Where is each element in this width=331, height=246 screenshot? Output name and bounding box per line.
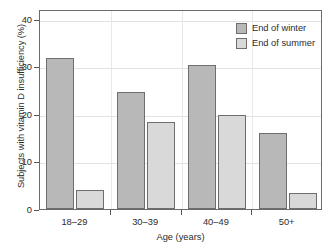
bar-30-39-end-of-summer xyxy=(147,122,175,209)
x-axis-tick-label: 50+ xyxy=(279,216,295,229)
y-axis-tick-label: 0 xyxy=(14,205,32,215)
legend-item-end-of-summer: End of summer xyxy=(236,37,315,49)
bar-50+-end-of-winter xyxy=(259,133,287,209)
legend: End of winter End of summer xyxy=(236,22,315,49)
gridline-vertical xyxy=(111,11,112,209)
legend-label-end-of-winter: End of winter xyxy=(252,23,306,34)
y-axis-tick-label: 30 xyxy=(14,62,32,72)
x-axis-tick-label: 40–49 xyxy=(203,216,229,229)
bar-40-49-end-of-winter xyxy=(188,65,216,209)
gridline-horizontal xyxy=(40,116,321,117)
legend-label-end-of-summer: End of summer xyxy=(252,38,315,49)
y-axis-tick-label: 10 xyxy=(14,157,32,167)
legend-swatch-summer-icon xyxy=(236,38,247,49)
gridline-vertical xyxy=(182,11,183,209)
x-axis-tick-label: 18–29 xyxy=(61,216,87,229)
bar-40-49-end-of-summer xyxy=(218,115,246,209)
x-axis-tick-mark xyxy=(251,210,252,215)
plot-area: End of winter End of summer xyxy=(39,10,322,210)
x-axis-tick-mark xyxy=(110,210,111,215)
gridline-horizontal xyxy=(40,68,321,69)
legend-item-end-of-winter: End of winter xyxy=(236,22,315,34)
y-axis-tick-label: 40 xyxy=(14,15,32,25)
bar-18-29-end-of-winter xyxy=(46,58,74,209)
x-axis-tick-mark xyxy=(181,210,182,215)
x-axis-tick-labels: 18–2930–3940–4950+ xyxy=(39,216,322,229)
y-axis-tick-label: 20 xyxy=(14,110,32,120)
x-axis-title: Age (years) xyxy=(39,231,322,243)
bar-18-29-end-of-summer xyxy=(76,190,104,209)
x-axis-tick-label: 30–39 xyxy=(132,216,158,229)
bar-30-39-end-of-winter xyxy=(117,92,145,209)
vitamin-d-insufficiency-bar-chart: Subjects with vitamin D insufficiency (%… xyxy=(0,0,331,246)
y-axis-tick-labels: 010203040 xyxy=(14,0,32,246)
x-axis-tick-marks xyxy=(39,210,322,215)
legend-swatch-winter-icon xyxy=(236,23,247,34)
bar-50+-end-of-summer xyxy=(289,193,317,209)
